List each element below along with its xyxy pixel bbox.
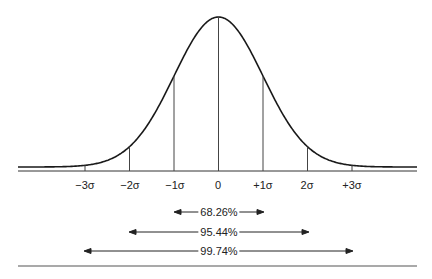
range-label-3-sigma: 99.74% [198, 245, 239, 257]
tick-plus-2-sigma: 2σ [301, 179, 314, 191]
tick-minus-1-sigma: −1σ [165, 179, 184, 191]
tick-plus-1-sigma: +1σ [253, 179, 272, 191]
tick-minus-2-sigma: −2σ [120, 179, 139, 191]
range-label-2-sigma: 95.44% [198, 226, 239, 238]
range-label-1-sigma: 68.26% [198, 206, 239, 218]
sigma-lines [85, 17, 352, 171]
tick-minus-3-sigma: −3σ [75, 179, 94, 191]
bell-curve [18, 17, 417, 167]
tick-zero: 0 [215, 179, 221, 191]
tick-plus-3-sigma: +3σ [342, 179, 361, 191]
